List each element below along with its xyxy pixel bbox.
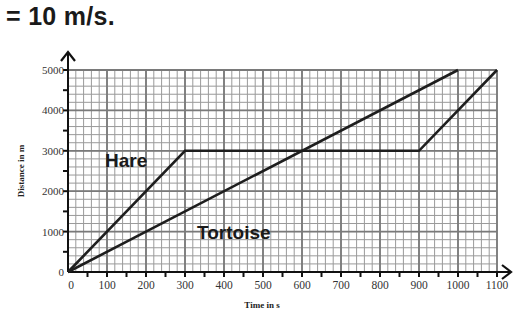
grid-minor	[68, 70, 497, 272]
tick-labels: 0100020003000400050000100200300400500600…	[42, 64, 509, 291]
x-tick-label: 600	[293, 279, 311, 291]
y-tick-label: 3000	[42, 145, 65, 157]
series-label-tortoise: Tortoise	[197, 222, 271, 243]
distance-time-chart: 0100020003000400050000100200300400500600…	[0, 0, 521, 320]
y-tick-label: 5000	[42, 64, 65, 76]
x-tick-label: 900	[410, 279, 428, 291]
x-tick-label: 1100	[486, 279, 509, 291]
y-tick-label: 2000	[42, 185, 65, 197]
grid-major	[68, 70, 497, 272]
x-tick-label: 300	[176, 279, 194, 291]
x-tick-label: 400	[215, 279, 233, 291]
x-tick-label: 500	[254, 279, 272, 291]
y-axis-label: Distance in m	[16, 144, 26, 197]
x-tick-label: 700	[332, 279, 350, 291]
y-tick-label: 0	[59, 266, 65, 278]
x-tick-label: 0	[68, 279, 74, 291]
x-axis-label: Time in s	[244, 300, 280, 310]
x-tick-label: 800	[371, 279, 389, 291]
series-lines	[68, 70, 497, 272]
y-tick-label: 1000	[42, 226, 65, 238]
y-tick-label: 4000	[42, 104, 65, 116]
series-line-hare	[68, 70, 497, 272]
x-tick-label: 200	[137, 279, 155, 291]
x-tick-label: 100	[98, 279, 116, 291]
series-label-hare: Hare	[105, 150, 147, 171]
x-tick-label: 1000	[447, 279, 470, 291]
